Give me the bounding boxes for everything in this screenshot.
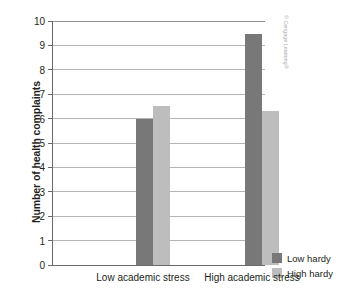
y-axis-tick — [48, 143, 53, 144]
y-axis-tick-label: 4 — [39, 162, 45, 173]
y-axis-tick — [48, 167, 53, 168]
y-axis-tick-label: 7 — [39, 89, 45, 100]
y-gridline — [53, 21, 265, 22]
y-axis-tick-label: 3 — [39, 186, 45, 197]
x-axis-tick-label: Low academic stress — [96, 272, 189, 283]
bar — [245, 34, 262, 265]
x-axis-tick-label: High academic stress — [204, 272, 300, 283]
bar — [262, 111, 279, 265]
y-axis-tick-label: 9 — [39, 40, 45, 51]
legend-item-label: Low hardy — [287, 253, 331, 264]
bar — [153, 106, 170, 265]
y-axis-tick — [48, 45, 53, 46]
y-axis-tick-label: 10 — [34, 16, 45, 27]
plot-inner — [53, 21, 265, 265]
y-axis-tick — [48, 118, 53, 119]
y-gridline — [53, 45, 265, 46]
y-axis-tick-label: 5 — [39, 138, 45, 149]
y-axis-tick — [48, 191, 53, 192]
y-axis-tick — [48, 69, 53, 70]
chart-figure: Number of health complaints 012345678910… — [0, 0, 355, 306]
y-axis-tick — [48, 21, 53, 22]
y-axis-tick — [48, 265, 53, 266]
y-axis-tick-label: 1 — [39, 235, 45, 246]
y-gridline — [53, 94, 265, 95]
y-axis-tick — [48, 216, 53, 217]
y-axis-tick — [48, 240, 53, 241]
y-axis-tick — [48, 94, 53, 95]
legend-item: Low hardy — [272, 251, 333, 265]
y-gridline — [53, 69, 265, 70]
legend-swatch-icon — [272, 253, 282, 263]
y-axis-tick-label: 0 — [39, 260, 45, 271]
y-axis-tick-label: 6 — [39, 113, 45, 124]
y-axis-tick-label: 2 — [39, 211, 45, 222]
plot-area: 012345678910 — [52, 21, 265, 266]
bar — [136, 119, 153, 265]
y-axis-tick-label: 8 — [39, 64, 45, 75]
copyright-credit: © Cengage Learning® — [283, 15, 289, 95]
